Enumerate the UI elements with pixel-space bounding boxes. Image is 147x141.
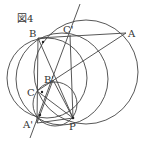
- label-B: B: [29, 28, 36, 39]
- label-C: C: [27, 87, 35, 98]
- line-B-Aprime: [37, 38, 38, 123]
- label-Cprime: C': [63, 24, 73, 35]
- figure-title: 図4: [17, 13, 33, 24]
- geometry-figure: 図4 B C' A B' C A' P: [0, 0, 147, 141]
- point-P: [72, 117, 75, 120]
- label-Bprime: B': [44, 74, 54, 85]
- label-Aprime: A': [22, 119, 33, 130]
- line-Bprime-P: [53, 80, 73, 118]
- angle-mark-Aprime: [39, 114, 41, 116]
- label-P: P: [69, 121, 76, 132]
- angle-mark-C: [41, 91, 43, 93]
- label-A: A: [127, 28, 136, 39]
- circle-middle: [16, 33, 108, 125]
- angle-mark-B: [42, 41, 44, 43]
